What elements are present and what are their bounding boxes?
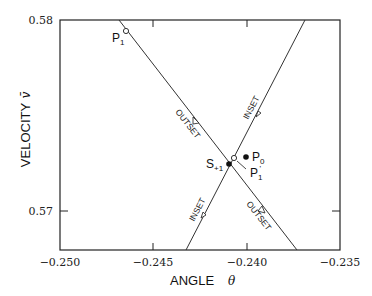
- point-p0: [243, 154, 249, 160]
- x-axis-symbol: θ: [228, 274, 236, 288]
- y-axis-label-group: VELOCITY: [18, 103, 33, 168]
- x-axis-label: ANGLE: [170, 273, 214, 288]
- y-tick-label: 0.57: [29, 205, 54, 218]
- y-tick-label: 0.58: [29, 14, 54, 27]
- p1-label: P1: [112, 31, 125, 47]
- s-plus-1-label: S+1: [206, 157, 224, 173]
- outset-line: [119, 20, 297, 250]
- y-axis-symbol: v̄: [19, 91, 33, 98]
- inset-label: INSET: [187, 196, 208, 223]
- x-tick-label: −0.245: [133, 256, 174, 269]
- outset-label: OUTSET: [244, 199, 273, 232]
- x-tick-label: −0.235: [320, 256, 361, 269]
- p1-prime-label: P1': [250, 164, 263, 182]
- x-tick-label: −0.250: [40, 256, 81, 269]
- point-p1-prime: [231, 155, 236, 160]
- y-axis-symbol-group: v̄: [19, 91, 33, 98]
- inset-label: INSET: [241, 94, 262, 121]
- y-axis-label: VELOCITY: [18, 103, 33, 168]
- x-tick-label: −0.240: [227, 256, 268, 269]
- p1-prime-leader: [237, 161, 246, 169]
- chart: −0.250 −0.245 −0.240 −0.235 0.58 0.57 AN…: [0, 0, 372, 296]
- point-s-plus-1: [226, 161, 232, 167]
- point-p1: [123, 28, 128, 33]
- outset-label: OUTSET: [173, 107, 202, 140]
- inset-arrow-icon: [256, 111, 261, 117]
